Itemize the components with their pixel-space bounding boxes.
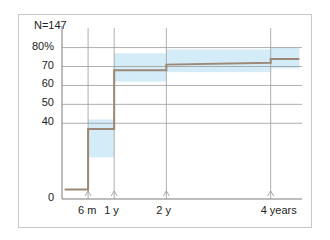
x-axis-tick-label: 1 y: [104, 204, 119, 216]
confidence-band-segment: [166, 49, 270, 72]
y-axis-tick-label: 40: [14, 115, 54, 127]
x-axis-tick-label: 2 y: [156, 204, 171, 216]
y-axis-tick-label: 0: [14, 191, 54, 203]
y-axis-tick-label: 50: [14, 96, 54, 108]
y-axis-tick-label: 60: [14, 77, 54, 89]
x-axis-tick-label: 6 m: [78, 204, 96, 216]
confidence-band-segment: [88, 120, 114, 158]
confidence-band-segment: [114, 53, 166, 81]
y-axis-tick-label: 70: [14, 59, 54, 71]
x-axis-tick-label: 4 years: [261, 204, 297, 216]
censor-marker-group: [85, 191, 274, 196]
y-axis-tick-label: 80%: [14, 40, 54, 52]
